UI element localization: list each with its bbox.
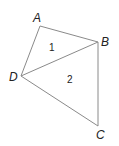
region-label-2: 2 [67,74,73,85]
diagonal-db [21,42,98,76]
vertex-label-c: C [96,128,105,142]
vertex-label-a: A [32,11,41,25]
vertex-label-b: B [101,35,109,49]
edge-cd [21,76,98,126]
region-label-1: 1 [49,42,55,53]
vertex-label-d: D [9,70,18,84]
quadrilateral-diagram: A B C D 1 2 [0,0,119,146]
edge-ab [40,26,98,42]
